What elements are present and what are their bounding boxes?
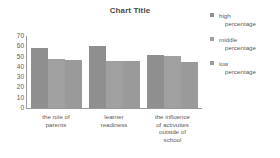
bar-low-percentage[interactable] xyxy=(181,62,198,108)
legend-swatch-icon xyxy=(210,13,214,17)
y-axis-tick: 10 xyxy=(17,94,24,101)
legend-label-line: middle xyxy=(219,36,237,43)
legend-item-low-percentage[interactable]: low percentage xyxy=(210,60,280,75)
legend-label-line: percentage xyxy=(219,20,280,28)
x-axis-line xyxy=(26,108,202,109)
category-label-line: parents xyxy=(46,121,67,128)
legend-swatch-icon xyxy=(210,37,214,41)
category-label-line: outside of xyxy=(159,128,186,135)
category-label-line: of activuties xyxy=(156,121,189,128)
legend-item-middle-percentage[interactable]: middle percentage xyxy=(210,36,280,51)
y-axis-tick: 0 xyxy=(20,105,24,112)
legend-item-high-percentage[interactable]: high percentage xyxy=(210,12,280,27)
category-label-line: the role of xyxy=(42,113,70,120)
legend-swatch-icon xyxy=(210,61,214,65)
y-axis-tick: 70 xyxy=(17,33,24,40)
category-label-learner-readiness: learner readiness xyxy=(85,113,143,128)
y-axis-tick: 30 xyxy=(17,74,24,81)
chart-title: Chart Title xyxy=(60,6,200,15)
chart-legend: high percentage middle percentage low pe… xyxy=(210,12,280,85)
legend-label: middle percentage xyxy=(219,36,280,51)
bar-group xyxy=(89,36,139,108)
category-label-line: school xyxy=(164,136,182,143)
y-axis-tick: 50 xyxy=(17,53,24,60)
y-axis: 70 60 50 40 30 20 10 0 xyxy=(0,36,24,108)
legend-label: low percentage xyxy=(219,60,280,75)
bar-middle-percentage[interactable] xyxy=(164,56,181,108)
legend-label-line: low xyxy=(219,60,228,67)
category-label-influence-of-activities: the influence of activuties outside of s… xyxy=(143,113,202,143)
category-label-line: the influence xyxy=(155,113,190,120)
bar-group xyxy=(31,36,81,108)
bar-high-percentage[interactable] xyxy=(89,46,106,108)
category-label-line: readiness xyxy=(101,121,128,128)
chart-container: Chart Title 70 60 50 40 30 20 10 0 xyxy=(0,0,280,158)
y-axis-tick: 60 xyxy=(17,43,24,50)
bar-middle-percentage[interactable] xyxy=(106,61,123,108)
legend-label: high percentage xyxy=(219,12,280,27)
bar-group xyxy=(147,36,197,108)
legend-label-line: percentage xyxy=(219,44,280,52)
bar-low-percentage[interactable] xyxy=(123,61,140,108)
y-axis-tick: 40 xyxy=(17,64,24,71)
bar-high-percentage[interactable] xyxy=(31,48,48,108)
bars-area xyxy=(27,36,202,108)
category-label-line: learner xyxy=(104,113,123,120)
category-label-role-of-parents: the role of parents xyxy=(27,113,85,128)
bar-low-percentage[interactable] xyxy=(65,60,82,108)
x-axis-category-labels: the role of parents learner readiness th… xyxy=(27,113,202,158)
y-axis-tick: 20 xyxy=(17,84,24,91)
legend-label-line: percentage xyxy=(219,68,280,76)
plot-area: 70 60 50 40 30 20 10 0 xyxy=(0,36,205,112)
legend-label-line: high xyxy=(219,12,231,19)
bar-middle-percentage[interactable] xyxy=(48,59,65,108)
bar-high-percentage[interactable] xyxy=(147,55,164,108)
